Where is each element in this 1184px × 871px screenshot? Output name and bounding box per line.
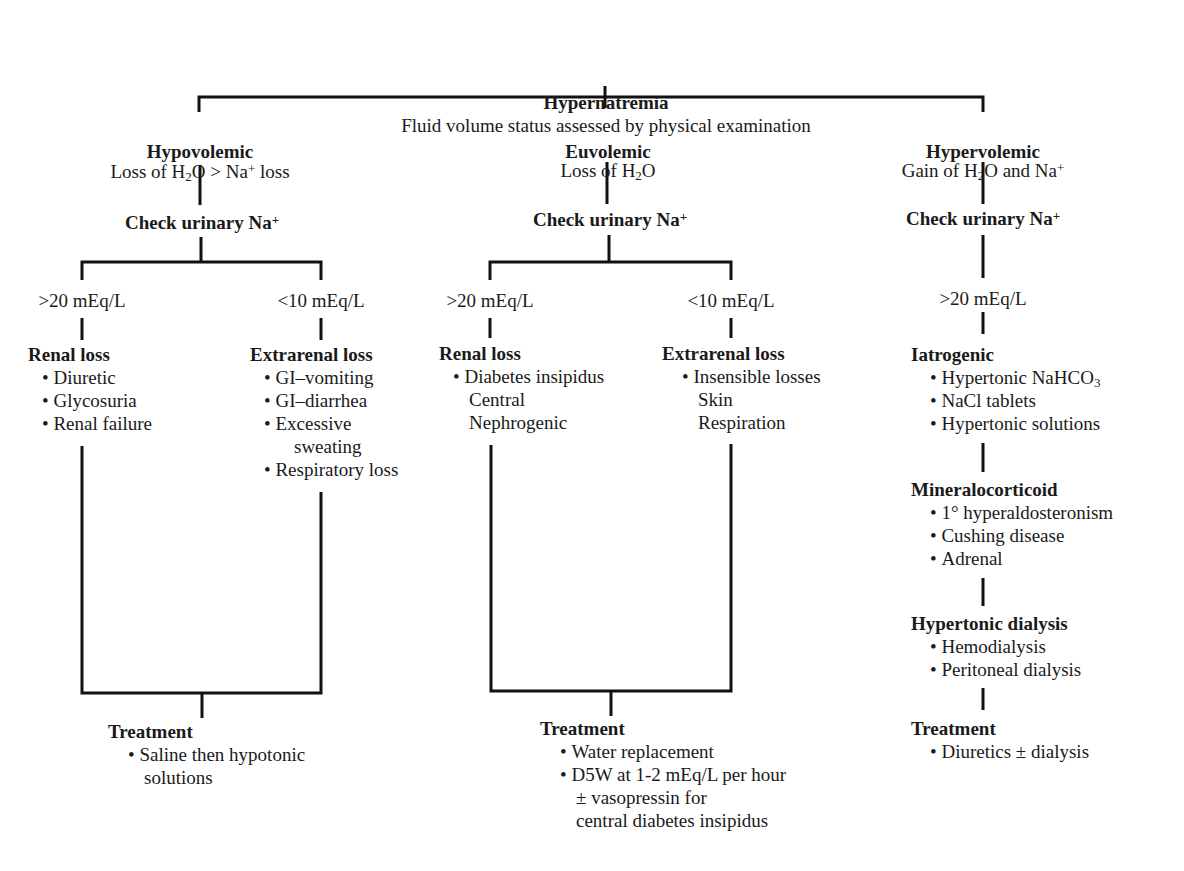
euvo-connector-branch: [490, 235, 731, 280]
list-item: D5W at 1-2 mEq/L per hour: [560, 763, 786, 786]
list-item-continuation: central diabetes insipidus: [560, 809, 786, 832]
list-item: Renal failure: [42, 412, 152, 435]
hypo-connector-branch: [82, 237, 321, 280]
list-item-continuation: sweating: [264, 435, 398, 458]
list-item: Saline then hypotonic: [128, 743, 305, 766]
hypervolemic-treatment-heading: Treatment: [911, 717, 1089, 740]
list-item: Diuretics ± dialysis: [930, 740, 1089, 763]
list-item-continuation: ± vasopressin for: [560, 786, 786, 809]
list-item: Hypertonic solutions: [930, 412, 1100, 435]
list-item: Hypertonic NaHCO3: [930, 366, 1100, 389]
list-item: Adrenal: [930, 547, 1113, 570]
list-item: Water replacement: [560, 740, 786, 763]
hypo-connector-merge: [82, 446, 321, 693]
hypervolemic-iatrogenic: Iatrogenic Hypertonic NaHCO3 NaCl tablet…: [911, 343, 1100, 435]
list-item: Cushing disease: [930, 524, 1113, 547]
list-item: GI–diarrhea: [264, 389, 398, 412]
list-item: Diabetes insipidus: [453, 365, 604, 388]
hypovolemic-extrarenal-loss-heading: Extrarenal loss: [250, 343, 398, 366]
list-item: Diuretic: [42, 366, 152, 389]
hypovolemic-treatment-heading: Treatment: [108, 720, 305, 743]
euvolemic-treatment-heading: Treatment: [540, 717, 786, 740]
hypervolemic-check-urinary-na: Check urinary Na+: [906, 207, 1060, 230]
root-subtitle: Fluid volume status assessed by physical…: [401, 114, 811, 137]
hypervolemic-treatment: Treatment Diuretics ± dialysis: [911, 717, 1089, 763]
list-item: GI–vomiting: [264, 366, 398, 389]
list-item-sub: Central: [453, 388, 604, 411]
hypovolemic-threshold-high: >20 mEq/L: [38, 289, 125, 312]
euvolemic-treatment: Treatment Water replacement D5W at 1-2 m…: [540, 717, 786, 832]
list-item: NaCl tablets: [930, 389, 1100, 412]
list-item: Respiratory loss: [264, 458, 398, 481]
list-item-sub: Nephrogenic: [453, 411, 604, 434]
hypovolemic-renal-loss-heading: Renal loss: [28, 343, 152, 366]
hypervolemic-threshold: >20 mEq/L: [939, 287, 1026, 310]
list-item-sub: Skin: [682, 388, 821, 411]
list-item: Excessive: [264, 412, 398, 435]
hypovolemic-extrarenal-loss: Extrarenal loss GI–vomiting GI–diarrhea …: [250, 343, 398, 481]
list-item: 1° hyperaldosteronism: [930, 501, 1113, 524]
euvolemic-extrarenal-loss-heading: Extrarenal loss: [662, 342, 821, 365]
iatrogenic-heading: Iatrogenic: [911, 343, 1100, 366]
hypervolemic-mineralocorticoid: Mineralocorticoid 1° hyperaldosteronism …: [911, 478, 1113, 570]
euvolemic-description: Loss of H2O: [560, 159, 655, 182]
list-item: Peritoneal dialysis: [930, 658, 1081, 681]
hypovolemic-threshold-low: <10 mEq/L: [277, 289, 364, 312]
hypervolemic-description: Gain of H2O and Na+: [902, 159, 1065, 182]
hypovolemic-treatment: Treatment Saline then hypotonic solution…: [108, 720, 305, 789]
hypertonic-dialysis-heading: Hypertonic dialysis: [911, 612, 1081, 635]
root-title: Hypernatremia: [543, 91, 668, 114]
list-item-continuation: solutions: [128, 766, 305, 789]
euvolemic-renal-loss-heading: Renal loss: [439, 342, 604, 365]
euvolemic-extrarenal-loss: Extrarenal loss Insensible losses Skin R…: [662, 342, 821, 434]
hypovolemic-description: Loss of H2O > Na+ loss: [110, 160, 289, 183]
mineralocorticoid-heading: Mineralocorticoid: [911, 478, 1113, 501]
euvolemic-threshold-high: >20 mEq/L: [446, 289, 533, 312]
hypovolemic-check-urinary-na: Check urinary Na+: [125, 211, 279, 234]
list-item: Glycosuria: [42, 389, 152, 412]
euvolemic-renal-loss: Renal loss Diabetes insipidus Central Ne…: [439, 342, 604, 434]
hypovolemic-renal-loss: Renal loss Diuretic Glycosuria Renal fai…: [28, 343, 152, 435]
euvo-connector-merge: [491, 444, 731, 691]
list-item: Hemodialysis: [930, 635, 1081, 658]
euvolemic-threshold-low: <10 mEq/L: [687, 289, 774, 312]
hypervolemic-hypertonic-dialysis: Hypertonic dialysis Hemodialysis Periton…: [911, 612, 1081, 681]
euvolemic-check-urinary-na: Check urinary Na+: [533, 208, 687, 231]
list-item: Insensible losses: [682, 365, 821, 388]
list-item-sub: Respiration: [682, 411, 821, 434]
